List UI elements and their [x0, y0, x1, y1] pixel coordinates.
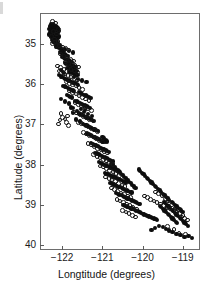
data-point-open [128, 195, 133, 200]
x-axis-tick-label: −121 [85, 252, 119, 263]
data-point-open [56, 27, 61, 32]
data-point-open [80, 87, 85, 92]
data-point-filled [175, 221, 179, 225]
plot-frame [40, 13, 200, 250]
data-point-open [123, 184, 128, 189]
data-point-open [185, 218, 190, 223]
x-axis-tick-label: −120 [126, 252, 160, 263]
x-axis-tick-label: −119 [166, 252, 200, 263]
y-axis-tick [40, 84, 44, 85]
data-point-open [62, 67, 67, 72]
data-point-open [53, 21, 58, 26]
data-point-open [87, 98, 92, 103]
y-axis-tick [40, 245, 44, 246]
x-axis-tick-label: −122 [45, 252, 79, 263]
data-point-open [56, 122, 61, 127]
data-point-open [117, 173, 122, 178]
data-point-open [100, 140, 105, 145]
x-axis-tick [143, 246, 144, 250]
data-point-open [65, 114, 70, 119]
data-point-open [95, 129, 100, 134]
data-point-filled [149, 228, 153, 232]
data-point-open [105, 151, 110, 156]
x-axis-tick [102, 246, 103, 250]
y-axis-tick-label: 36 [14, 78, 36, 89]
y-axis-tick-label: 39 [14, 199, 36, 210]
y-axis-tick [40, 124, 44, 125]
y-axis-tick-label: 40 [14, 239, 36, 250]
data-point-filled [129, 190, 133, 194]
data-points-layer [41, 14, 199, 249]
data-point-open [134, 207, 139, 212]
data-point-open [133, 215, 138, 220]
y-axis-tick [40, 44, 44, 45]
data-point-filled [137, 167, 141, 171]
x-axis-tick [62, 246, 63, 250]
data-point-open [59, 111, 64, 116]
data-point-filled [138, 202, 142, 206]
data-point-filled [84, 80, 88, 84]
data-point-open [89, 108, 94, 113]
data-point-open [111, 162, 116, 167]
x-axis-tick [183, 246, 184, 250]
y-axis-tick-label: 35 [14, 38, 36, 49]
data-point-filled [67, 101, 71, 105]
data-point-filled [71, 50, 75, 54]
data-point-filled [190, 236, 194, 240]
y-axis-label: Latitude (degrees) [12, 115, 24, 200]
data-point-open [76, 65, 81, 70]
scatter-plot-figure: 403938373635−122−121−120−119 Longtitude … [0, 0, 213, 289]
data-point-filled [63, 99, 67, 103]
data-point-open [165, 224, 170, 229]
data-point-filled [186, 224, 190, 228]
data-point-open [66, 123, 71, 128]
y-axis-tick [40, 205, 44, 206]
data-point-filled [155, 218, 159, 222]
x-axis-label: Longtitude (degrees) [0, 268, 213, 280]
data-point-open [75, 78, 80, 83]
data-point-filled [157, 224, 161, 228]
data-point-open [183, 232, 188, 237]
y-axis-tick [40, 165, 44, 166]
data-point-open [75, 70, 80, 75]
